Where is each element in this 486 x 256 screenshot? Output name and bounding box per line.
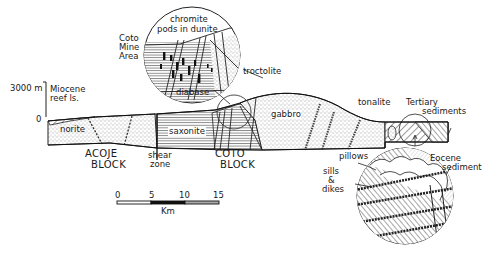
- troctolite-label: troctolite: [243, 67, 281, 76]
- gabbro-label: gabbro: [271, 110, 301, 119]
- eocene-label-2: sediment: [442, 163, 482, 172]
- diabase-label: diabase: [176, 88, 209, 97]
- scale-tick-5: 5: [149, 191, 154, 200]
- miocene-label-2: reef ls.: [50, 94, 79, 103]
- sills-label-3: dikes: [322, 185, 344, 194]
- acoje-block-label-2: BLOCK: [91, 159, 126, 170]
- tonalite-label: tonalite: [358, 98, 390, 107]
- coto-block-label-2: BLOCK: [220, 159, 255, 170]
- pillows-label: pillows: [339, 152, 368, 161]
- vertical-scale-top-label: 3000 m: [10, 84, 43, 93]
- norite-label: norite: [60, 125, 85, 134]
- chromite-label-1: chromite: [170, 15, 208, 24]
- chromite-label-2: pods in dunite: [157, 25, 218, 34]
- scale-tick-10: 10: [179, 191, 190, 200]
- scale-tick-15: 15: [213, 191, 224, 200]
- shear-zone-label-2: zone: [150, 160, 170, 169]
- scale-tick-0: 0: [115, 191, 120, 200]
- saxonite-label: saxonite: [168, 127, 206, 136]
- coto-mine-area-label-3: Area: [119, 52, 139, 61]
- scale-unit-label: Km: [161, 207, 175, 216]
- vertical-scale-bottom-label: 0: [36, 115, 41, 124]
- horizontal-scale-bar: [117, 201, 219, 204]
- coto-block-label-1: COTO: [215, 148, 245, 159]
- acoje-block-label-1: ACOJE: [85, 148, 117, 159]
- vertical-scale: [43, 82, 46, 117]
- tertiary-label-2: sediments: [422, 107, 466, 116]
